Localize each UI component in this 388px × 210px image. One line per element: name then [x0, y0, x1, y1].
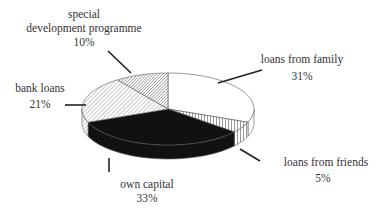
leader-line-family: [218, 70, 262, 83]
label-bank-name: bank loans: [15, 82, 65, 94]
pie-layer: [82, 73, 254, 159]
label-special-line2: development programme: [26, 22, 141, 35]
label-capital-value: 33%: [136, 192, 158, 204]
label-capital-name: own capital: [120, 178, 173, 191]
pie-chart: special development programme 10% loans …: [0, 0, 388, 210]
leader-line-special: [108, 51, 131, 73]
label-bank-value: 21%: [29, 98, 51, 110]
label-friends-value: 5%: [315, 172, 331, 184]
label-special-line1: special: [68, 8, 100, 21]
label-special-value: 10%: [73, 36, 95, 48]
label-family-name: loans from family: [261, 53, 344, 66]
label-family-value: 31%: [291, 70, 313, 82]
label-friends-name: loans from friends: [284, 156, 369, 168]
leader-line-friends: [240, 149, 260, 161]
